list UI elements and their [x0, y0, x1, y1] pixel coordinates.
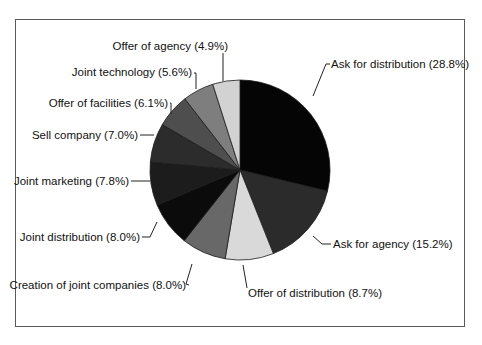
label-creation-of-joint-companies: Creation of joint companies (8.0%)	[10, 279, 187, 291]
pie-chart: Ask for distribution (28.8%) Ask for age…	[0, 0, 482, 345]
label-joint-marketing: Joint marketing (7.8%)	[14, 175, 129, 187]
label-offer-of-facilities: Offer of facilities (6.1%)	[49, 97, 168, 109]
label-ask-for-agency: Ask for agency (15.2%)	[333, 238, 453, 250]
label-ask-for-distribution: Ask for distribution (28.8%)	[331, 58, 469, 70]
leader-line	[186, 264, 192, 285]
label-offer-of-agency: Offer of agency (4.9%)	[113, 40, 229, 52]
leader-line	[170, 103, 171, 114]
label-offer-of-distribution: Offer of distribution (8.7%)	[248, 287, 382, 299]
pie-slices	[150, 80, 330, 260]
leader-line	[243, 265, 247, 288]
leader-line	[313, 236, 331, 244]
leader-line	[313, 64, 330, 96]
leader-line	[142, 222, 157, 237]
leader-line	[194, 73, 196, 89]
label-joint-distribution: Joint distribution (8.0%)	[20, 231, 140, 243]
label-joint-technology: Joint technology (5.6%)	[72, 66, 192, 78]
label-sell-company: Sell company (7.0%)	[32, 129, 138, 141]
